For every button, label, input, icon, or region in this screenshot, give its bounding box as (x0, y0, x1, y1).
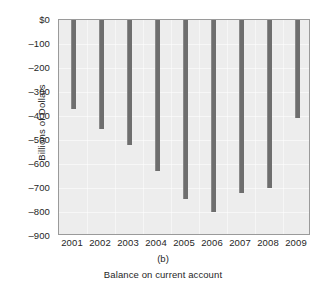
bar (155, 20, 160, 171)
bar-series (59, 20, 309, 234)
bar (211, 20, 216, 212)
chart-figure: Billions of Dollars $0–100–200–300–400–5… (0, 0, 326, 287)
figure-caption: Balance on current account (0, 269, 326, 280)
y-tick-label: –700 (28, 182, 50, 193)
y-tick-label: –600 (28, 158, 50, 169)
x-tick-label: 2002 (89, 237, 111, 248)
y-tick-label: –200 (28, 62, 50, 73)
x-tick-label: 2001 (61, 237, 83, 248)
bar (99, 20, 104, 129)
y-tick-label: –800 (28, 206, 50, 217)
y-tick-label: $0 (39, 14, 50, 25)
panel-letter: (b) (0, 253, 326, 264)
x-tick-label: 2007 (229, 237, 251, 248)
y-tick-label: –100 (28, 38, 50, 49)
bar (71, 20, 76, 109)
x-axis-tick-labels: 200120022003200420052006200720082009 (58, 237, 310, 251)
y-tick-label: –300 (28, 86, 50, 97)
x-tick-label: 2006 (201, 237, 223, 248)
bar (295, 20, 300, 118)
bar (127, 20, 132, 145)
y-tick-label: –900 (28, 230, 50, 241)
x-tick-label: 2003 (117, 237, 139, 248)
y-tick-label: –500 (28, 134, 50, 145)
plot-area (58, 19, 310, 235)
y-axis-tick-labels: $0–100–200–300–400–500–600–700–800–900 (0, 19, 54, 235)
bar (183, 20, 188, 199)
bar (239, 20, 244, 193)
x-tick-label: 2008 (257, 237, 279, 248)
x-tick-label: 2009 (285, 237, 307, 248)
bar (267, 20, 272, 188)
x-tick-label: 2004 (145, 237, 167, 248)
y-tick-label: –400 (28, 110, 50, 121)
x-tick-label: 2005 (173, 237, 195, 248)
